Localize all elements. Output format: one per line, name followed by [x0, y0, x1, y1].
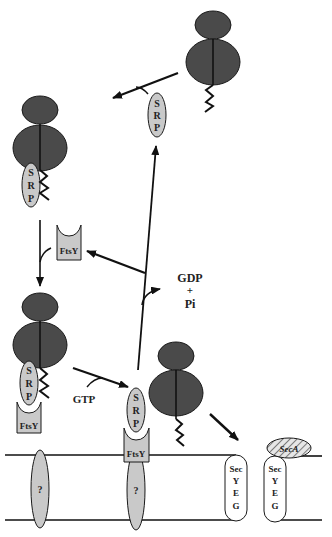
pi-label: Pi: [185, 297, 196, 311]
y-label: Y: [272, 476, 279, 486]
seca-label: SecA: [280, 444, 299, 454]
srp-ftsy-membrane: ? FtsY S R P: [124, 388, 149, 530]
ribosome-small-subunit: [158, 342, 194, 370]
srp-label-p: P: [133, 418, 139, 429]
arrow-srp-binding: [113, 73, 178, 98]
arrow-gtp: GTP: [73, 368, 128, 405]
srp-label-r: R: [153, 110, 161, 121]
srp-label-r: R: [27, 180, 35, 191]
ribosome-srp: S R P: [13, 96, 67, 207]
srp-label-r: R: [25, 378, 33, 389]
unknown-receptor-label: ?: [134, 485, 139, 496]
y-label: Y: [233, 476, 240, 486]
receptor-1: ?: [31, 450, 49, 528]
srp-label-r: R: [132, 405, 140, 416]
ftsy-label: FtsY: [60, 246, 79, 256]
gtp-label: GTP: [73, 393, 96, 405]
sec-label: Sec: [230, 464, 243, 474]
srp-label-s: S: [133, 392, 139, 403]
secyeg-seca: Sec Y E G SecA: [264, 438, 311, 522]
nascent-chain-zigzag: [205, 85, 213, 112]
srp-label-s: S: [26, 365, 32, 376]
secyeg-1: Sec Y E G: [225, 455, 247, 521]
arrow-srp-release: [87, 146, 160, 370]
e-label: E: [233, 488, 239, 498]
plus-label: +: [187, 284, 193, 296]
ribosome-released: [149, 342, 203, 446]
arrow-to-secyeg: [210, 414, 238, 440]
ribosome-srp-ftsy: FtsY S R P: [13, 293, 67, 433]
ftsy-label: FtsY: [127, 449, 146, 459]
gdp-label: GDP: [177, 271, 202, 285]
g-label: G: [271, 501, 278, 511]
srp-label-p: P: [154, 122, 160, 133]
unknown-receptor-label: ?: [38, 484, 43, 495]
ribosome-small-subunit: [22, 293, 58, 321]
e-label: E: [272, 488, 278, 498]
ribosome-top-right: [186, 11, 240, 112]
nascent-chain-zigzag: [176, 419, 184, 446]
nascent-chain-zigzag: [40, 170, 49, 200]
nascent-chain-zigzag: [40, 368, 49, 398]
srp-free: S R P: [148, 93, 166, 137]
ribosome-small-subunit: [195, 11, 231, 39]
gdp-pi-label: GDP + Pi: [177, 271, 202, 311]
srp-label-s: S: [28, 167, 34, 178]
sec-label: Sec: [269, 464, 282, 474]
srp-label-s: S: [154, 98, 160, 109]
srp-label-p: P: [26, 391, 32, 402]
ftsy-label: FtsY: [20, 421, 39, 431]
srp-targeting-diagram: S R P S R P FtsY FtsY S R P: [0, 0, 332, 537]
arrow-ftsy-binding: [40, 220, 51, 286]
g-label: G: [232, 501, 239, 511]
ftsy-free: FtsY: [57, 225, 81, 260]
ribosome-small-subunit: [22, 96, 58, 124]
srp-label-p: P: [28, 193, 34, 204]
